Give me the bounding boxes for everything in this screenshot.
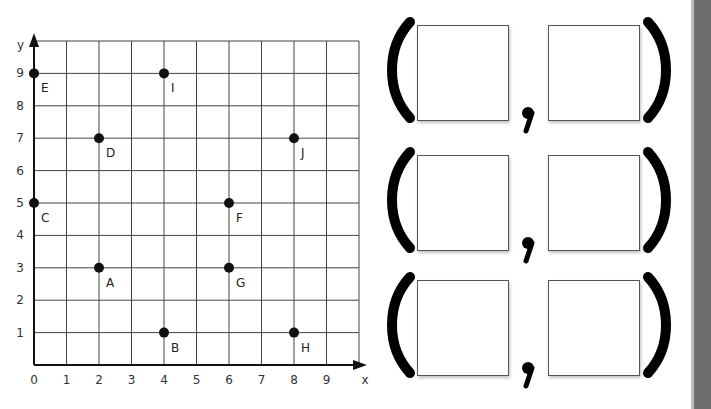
point-c-dot — [29, 198, 39, 208]
left-parenthesis-icon — [378, 10, 418, 130]
right-parenthesis-icon — [640, 10, 680, 130]
y-tick-label: 8 — [16, 99, 24, 113]
answer-area — [370, 0, 670, 409]
point-h-label: H — [301, 341, 310, 355]
comma-icon — [520, 105, 536, 135]
coordinate-grid: 0123456789123456789xyABCDEFGHIJ — [0, 0, 370, 409]
y-tick-label: 6 — [16, 164, 24, 178]
y-tick-label: 2 — [16, 293, 24, 307]
x-tick-label: 7 — [258, 373, 266, 387]
left-parenthesis-icon — [378, 265, 418, 385]
point-j-dot — [289, 133, 299, 143]
comma-icon — [520, 360, 536, 390]
point-c-label: C — [41, 211, 49, 225]
point-e-label: E — [41, 81, 49, 95]
x-tick-label: 2 — [95, 373, 103, 387]
x-tick-label: 8 — [290, 373, 298, 387]
x-tick-label: 9 — [323, 373, 331, 387]
x-tick-label: 6 — [225, 373, 233, 387]
x-coordinate-input[interactable] — [417, 155, 509, 251]
x-tick-label: 5 — [193, 373, 201, 387]
x-tick-label: 3 — [128, 373, 136, 387]
point-g-label: G — [236, 276, 245, 290]
y-tick-label: 9 — [16, 66, 24, 80]
x-tick-label: 1 — [63, 373, 71, 387]
point-d-label: D — [106, 146, 115, 160]
ordered-pair-row — [370, 140, 670, 260]
y-tick-label: 5 — [16, 196, 24, 210]
y-coordinate-input[interactable] — [548, 280, 640, 376]
right-parenthesis-icon — [640, 265, 680, 385]
right-parenthesis-icon — [640, 140, 680, 260]
point-b-dot — [159, 328, 169, 338]
x-axis-arrow-icon — [353, 360, 367, 370]
point-h-dot — [289, 328, 299, 338]
point-f-label: F — [236, 211, 243, 225]
x-coordinate-input[interactable] — [417, 280, 509, 376]
y-axis-arrow-icon — [29, 33, 39, 47]
x-coordinate-input[interactable] — [417, 25, 509, 121]
point-a-label: A — [106, 276, 115, 290]
comma-icon — [520, 235, 536, 265]
grid-svg: 0123456789123456789xyABCDEFGHIJ — [0, 0, 370, 409]
left-parenthesis-icon — [378, 140, 418, 260]
x-axis-label: x — [361, 373, 368, 387]
point-e-dot — [29, 68, 39, 78]
point-b-label: B — [171, 341, 179, 355]
point-f-dot — [224, 198, 234, 208]
point-j-label: J — [300, 146, 305, 160]
point-a-dot — [94, 263, 104, 273]
point-i-dot — [159, 68, 169, 78]
point-g-dot — [224, 263, 234, 273]
x-tick-label: 4 — [160, 373, 168, 387]
y-coordinate-input[interactable] — [548, 25, 640, 121]
point-d-dot — [94, 133, 104, 143]
point-i-label: I — [171, 81, 175, 95]
y-tick-label: 1 — [16, 326, 24, 340]
x-tick-label: 0 — [30, 373, 38, 387]
ordered-pair-row — [370, 265, 670, 385]
ordered-pair-row — [370, 10, 670, 130]
y-tick-label: 4 — [16, 228, 24, 242]
y-tick-label: 3 — [16, 261, 24, 275]
y-tick-label: 7 — [16, 131, 24, 145]
y-coordinate-input[interactable] — [548, 155, 640, 251]
y-axis-label: y — [17, 38, 24, 52]
scrollbar[interactable] — [691, 0, 711, 409]
